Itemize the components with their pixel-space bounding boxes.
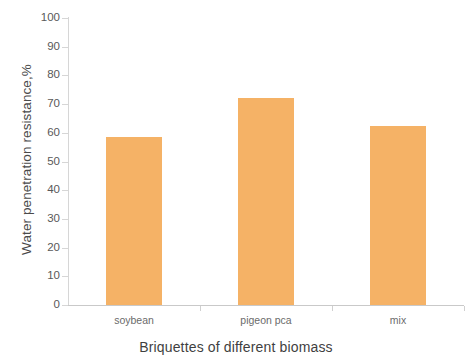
x-axis-line <box>68 305 464 306</box>
y-axis-tick-label: 80 <box>32 69 60 81</box>
y-axis-tick-labels: 1009080706050403020100 <box>28 0 60 361</box>
bar <box>238 98 294 305</box>
y-axis-tick-label: 30 <box>32 213 60 225</box>
x-axis-tick-mark <box>200 306 201 311</box>
y-axis-tick-label: 0 <box>32 299 60 311</box>
plot-area <box>68 18 464 305</box>
x-axis-category-label: soybean <box>74 314 194 326</box>
y-axis-tick-label: 10 <box>32 270 60 282</box>
y-axis-tick-label: 90 <box>32 41 60 53</box>
x-axis-category-label: mix <box>338 314 458 326</box>
x-axis-category-label: pigeon pca <box>206 314 326 326</box>
y-axis-tick-label: 20 <box>32 242 60 254</box>
bar-chart: Water penetration resistance,% 100908070… <box>0 0 472 361</box>
x-axis-tick-mark <box>332 306 333 311</box>
y-axis-tick-label: 50 <box>32 156 60 168</box>
y-axis-tick-mark <box>62 305 68 306</box>
bar <box>106 137 162 305</box>
y-axis-tick-label: 70 <box>32 98 60 110</box>
x-axis-title: Briquettes of different biomass <box>0 339 472 355</box>
bar <box>370 126 426 305</box>
x-axis-tick-mark <box>464 306 465 311</box>
y-axis-tick-label: 60 <box>32 127 60 139</box>
y-axis-tick-label: 100 <box>32 12 60 24</box>
y-axis-tick-label: 40 <box>32 184 60 196</box>
